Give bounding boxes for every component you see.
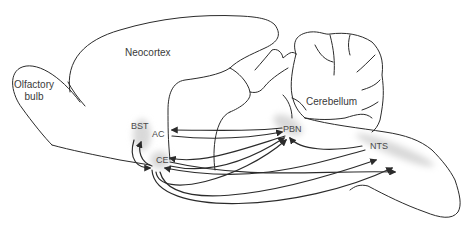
arrow-ce-to-nts-2	[170, 162, 395, 173]
olfactory-bulb-line1: Olfactory	[10, 79, 58, 91]
olfactory-bulb-line2: bulb	[10, 91, 58, 103]
label-pbn: PBN	[283, 123, 302, 135]
label-bst: BST	[131, 120, 149, 132]
arrow-ac-to-pbn	[172, 132, 282, 138]
arrow-ce-to-nts	[160, 160, 376, 196]
arrow-bst-to-pbn	[156, 140, 286, 185]
connection-arrows	[132, 128, 395, 204]
label-cerebellum: Cerebellum	[306, 96, 357, 108]
brain-outline	[13, 16, 461, 218]
label-olfactory-bulb: Olfactory bulb	[10, 79, 58, 103]
label-ce: CE	[156, 154, 169, 166]
label-nts: NTS	[370, 140, 388, 152]
label-neocortex: Neocortex	[125, 47, 171, 59]
brainstem-outline	[305, 118, 460, 217]
arrow-pbn-to-ac	[172, 128, 282, 131]
arrow-nts-to-pbn	[290, 138, 362, 149]
nts-highlight	[354, 129, 436, 172]
arrow-nts-to-ce	[165, 150, 365, 175]
label-ac: AC	[152, 128, 165, 140]
neocortex-outline	[69, 16, 278, 92]
brain-diagram	[0, 0, 476, 228]
